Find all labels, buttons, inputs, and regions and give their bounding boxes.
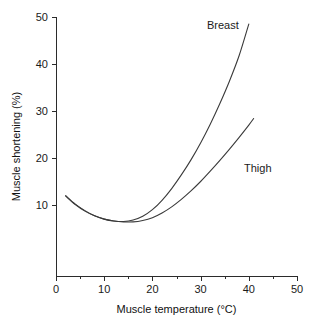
x-tick-label-30: 30 [194, 283, 206, 295]
chart-canvas: 102030405001020304050Muscle temperature … [0, 0, 321, 325]
x-axis-title: Muscle temperature (°C) [117, 303, 237, 315]
curve-thigh [66, 119, 254, 223]
chart-figure: 102030405001020304050Muscle temperature … [0, 0, 321, 325]
series-label-thigh: Thigh [244, 162, 272, 174]
x-tick-label-50: 50 [291, 283, 303, 295]
data-series [66, 24, 254, 222]
x-tick-label-20: 20 [146, 283, 158, 295]
curve-breast [66, 24, 249, 221]
y-tick-label-30: 30 [36, 105, 48, 117]
x-tick-label-0: 0 [53, 283, 59, 295]
axes [56, 17, 297, 277]
tick-marks [52, 18, 298, 282]
y-tick-label-50: 50 [36, 11, 48, 23]
x-tick-label-10: 10 [98, 283, 110, 295]
series-label-breast: Breast [207, 19, 239, 31]
x-tick-label-40: 40 [243, 283, 255, 295]
y-tick-label-40: 40 [36, 58, 48, 70]
y-tick-label-20: 20 [36, 152, 48, 164]
y-axis-title: Muscle shortening (%) [10, 92, 22, 201]
y-tick-label-10: 10 [36, 199, 48, 211]
